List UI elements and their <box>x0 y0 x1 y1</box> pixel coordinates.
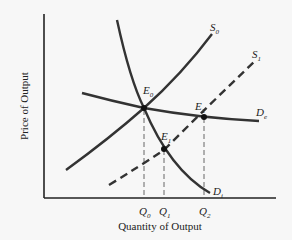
label-e2: E2 <box>194 100 206 115</box>
tick-q0: Q0 <box>139 205 151 220</box>
y-axis-title: Price of Output <box>18 72 30 140</box>
supply-demand-diagram: S0 S1 De Di E0 E1 E2 Q0 Q1 Q2 <box>0 0 292 240</box>
x-axis-title: Quantity of Output <box>118 220 202 232</box>
curve-s0 <box>66 34 212 170</box>
label-de: De <box>255 106 267 121</box>
point-e0 <box>141 105 147 111</box>
point-e1 <box>161 146 167 152</box>
label-e0: E0 <box>142 84 154 99</box>
tick-q2: Q2 <box>199 205 211 220</box>
tick-q1: Q1 <box>159 205 170 220</box>
curve-s1 <box>109 62 254 185</box>
diagram-canvas: S0 S1 De Di E0 E1 E2 Q0 Q1 Q2 <box>0 0 292 240</box>
curve-de <box>82 93 259 121</box>
label-s1: S1 <box>252 48 261 63</box>
